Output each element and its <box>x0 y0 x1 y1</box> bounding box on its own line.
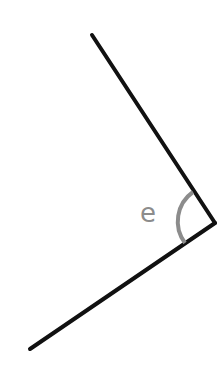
upper-ray <box>92 35 215 223</box>
angle-arc <box>178 192 193 243</box>
lower-ray <box>30 223 215 349</box>
angle-label: e <box>140 198 156 228</box>
angle-diagram: e <box>0 0 224 366</box>
angle-figure: e <box>0 0 224 366</box>
